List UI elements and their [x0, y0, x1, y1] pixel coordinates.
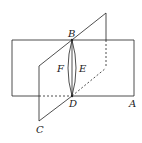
label-C: C	[36, 124, 44, 135]
label-B: B	[67, 28, 75, 39]
arcs-BD	[68, 40, 76, 96]
label-F: F	[56, 63, 65, 74]
label-E: E	[78, 63, 87, 74]
horizontal-plane	[12, 40, 134, 96]
point-B	[71, 39, 73, 41]
point-D	[71, 95, 73, 97]
geometry-diagram: B D F E A C	[0, 0, 142, 143]
label-D: D	[68, 98, 77, 109]
label-A: A	[128, 98, 136, 109]
